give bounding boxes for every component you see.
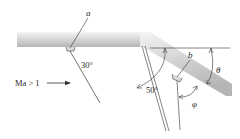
gauge-a-label: a — [86, 8, 91, 18]
oblique-shock-line — [70, 51, 100, 103]
supersonic-wall-diagram: a 30° Ma > 1 50° b φ θ — [0, 0, 240, 139]
flow-mach-label: Ma > 1 — [15, 78, 40, 88]
shock-angle-30-label: 30° — [81, 60, 93, 70]
gauge-b-vertical-line — [177, 81, 180, 130]
gauge-b-label: b — [188, 50, 193, 60]
theta-arrowhead-top — [209, 48, 213, 53]
wall — [17, 32, 232, 96]
wall-flat-section — [17, 32, 145, 47]
gauge-b-notch — [172, 74, 182, 82]
phi-label: φ — [192, 99, 197, 109]
theta-label: θ — [216, 65, 221, 75]
angle-50-label: 50° — [146, 85, 158, 95]
